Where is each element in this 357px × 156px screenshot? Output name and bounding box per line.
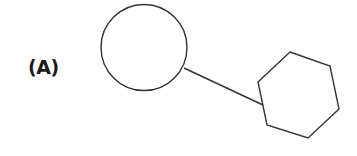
diagram-canvas — [0, 0, 357, 156]
circle-node — [101, 5, 187, 91]
connector-edge — [184, 68, 263, 105]
hexagon-node — [258, 52, 339, 138]
